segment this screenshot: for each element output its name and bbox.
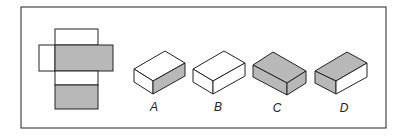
net-center-face <box>55 45 113 71</box>
net-top-face <box>55 29 98 45</box>
option-c[interactable] <box>253 52 306 95</box>
label-a: A <box>149 100 158 114</box>
option-d[interactable] <box>315 52 367 94</box>
label-b: B <box>214 100 222 114</box>
net <box>39 29 113 109</box>
option-a[interactable] <box>134 51 185 94</box>
label-d: D <box>340 101 349 115</box>
net-bottom-face <box>55 85 98 109</box>
net-left-face <box>39 45 55 71</box>
label-c: C <box>273 101 282 115</box>
option-b[interactable] <box>193 51 245 94</box>
net-front-face <box>55 71 98 85</box>
diagram: A B C D <box>0 0 408 137</box>
